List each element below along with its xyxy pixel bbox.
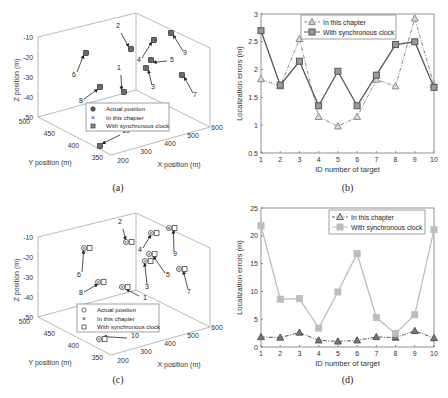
square-marker-icon	[431, 84, 437, 90]
chart-b-canvas: 0.511.522.5312345678910ID number of targ…	[224, 0, 448, 200]
sync-clock-marker-icon	[87, 246, 92, 251]
y-tick-label: 450	[44, 130, 56, 137]
y-axis-label: Y position (m)	[28, 159, 71, 167]
target-id-label: 6	[77, 271, 81, 278]
target-id-label: 9	[183, 49, 187, 56]
square-marker-icon	[412, 39, 418, 45]
legend-square-icon	[309, 29, 315, 35]
square-marker-icon	[335, 289, 341, 295]
pointer-arrow-icon	[84, 284, 98, 292]
y-tick-label: 2.5	[248, 38, 258, 45]
target-id-label: 5	[170, 56, 174, 63]
legend-label: With synchronous clock	[351, 224, 423, 232]
axis-box-edge	[38, 213, 136, 237]
in-this-chapter-marker-icon: ×	[168, 225, 171, 231]
z-axis-label: Z position (m)	[13, 59, 21, 102]
square-marker-icon	[354, 251, 360, 257]
target-id-label: 4	[138, 246, 142, 253]
sync-clock-marker-icon	[98, 144, 103, 149]
y-tick-label: 350	[92, 354, 104, 361]
y-tick-label: 500	[19, 118, 31, 125]
triangle-marker-icon	[373, 333, 380, 339]
square-marker-icon	[393, 42, 399, 48]
pointer-arrow-icon	[102, 135, 120, 144]
x-tick-label: 400	[164, 340, 176, 347]
panel-caption: (d)	[342, 374, 354, 386]
sync-clock-marker-icon	[102, 337, 107, 342]
target-id-label: 8	[79, 97, 83, 104]
pointer-arrow-icon	[153, 61, 167, 62]
series-line-2	[261, 226, 434, 334]
sync-clock-marker-icon	[98, 85, 103, 90]
in-this-chapter-marker-icon: ×	[178, 266, 181, 272]
legend-cross-icon: ×	[82, 315, 86, 322]
y-axis-label: Y position (m)	[28, 359, 71, 367]
square-marker-icon	[316, 325, 322, 331]
x-axis-label: X position (m)	[157, 361, 200, 369]
target-id-label: 3	[151, 83, 155, 90]
sync-clock-marker-icon	[122, 90, 127, 95]
square-marker-icon	[412, 312, 418, 318]
chart-d-canvas: 051015202512345678910ID number of target…	[224, 200, 448, 398]
square-marker-icon	[373, 315, 379, 321]
sync-clock-marker-icon	[129, 47, 134, 52]
z-axis-label: Z position (m)	[13, 259, 21, 302]
x-tick-label: 6	[355, 156, 359, 163]
z-tick-label: -40	[23, 94, 33, 101]
pointer-arrow-icon	[145, 263, 147, 284]
sync-clock-marker-icon	[180, 73, 185, 78]
pointer-arrow-icon	[84, 89, 98, 99]
pointer-arrow-icon	[173, 35, 183, 51]
y-axis-label: Localization errors (m)	[235, 46, 244, 121]
triangle-marker-icon	[296, 329, 303, 335]
legend-square-icon	[82, 325, 86, 329]
triangle-marker-icon	[431, 335, 438, 341]
pointer-arrow-icon	[173, 230, 174, 251]
pointer-arrow-icon	[123, 229, 126, 240]
x-tick-label: 9	[413, 156, 417, 163]
in-this-chapter-marker-icon: ×	[125, 239, 128, 245]
sync-clock-marker-icon	[148, 259, 153, 264]
legend-label: In this chapter	[106, 115, 144, 121]
square-marker-icon	[335, 68, 341, 74]
target-id-label: 8	[79, 289, 83, 296]
square-marker-icon	[258, 223, 264, 229]
target-id-label: 3	[145, 283, 149, 290]
panel-a-3d-scatter: -10-20-30-40-50Z position (m)35040045050…	[0, 0, 224, 200]
target-id-label: 2	[116, 22, 120, 29]
legend-label: With synchronous clock	[97, 324, 161, 330]
sync-clock-marker-icon	[172, 226, 177, 231]
x-tick-label: 500	[187, 132, 199, 139]
target-id-label: 6	[72, 71, 76, 78]
x-tick-label: 2	[278, 350, 282, 357]
panel-c-3d-scatter: -10-20-30-40-50Z position (m)35040045050…	[0, 200, 224, 398]
x-tick-label: 5	[336, 350, 340, 357]
x-tick-label: 500	[187, 332, 199, 339]
target-id-label: 2	[118, 218, 122, 225]
pointer-arrow-icon	[121, 75, 122, 90]
y-tick-label: 3	[254, 11, 258, 18]
target-id-label: 9	[173, 250, 177, 257]
triangle-marker-icon	[354, 337, 361, 343]
y-tick-label: 450	[44, 330, 56, 337]
x-tick-label: 10	[430, 350, 438, 357]
legend-label: With synchronous clock	[106, 123, 170, 129]
in-this-chapter-marker-icon: ×	[83, 245, 86, 251]
sync-clock-marker-icon	[182, 267, 187, 272]
pointer-arrow-icon	[77, 55, 84, 72]
pointer-arrow-icon	[143, 235, 151, 248]
legend-square-icon	[337, 224, 343, 230]
triangle-marker-icon	[354, 113, 361, 119]
target-id-label: 1	[143, 294, 147, 301]
in-this-chapter-marker-icon: ×	[150, 230, 153, 236]
sync-clock-marker-icon	[125, 285, 130, 290]
target-id-label: 10	[131, 332, 139, 339]
triangle-marker-icon	[258, 75, 265, 81]
z-tick-label: -30	[23, 274, 33, 281]
series-line-1	[261, 331, 434, 342]
y-tick-label: 1.5	[248, 94, 258, 101]
chart-a-canvas: -10-20-30-40-50Z position (m)35040045050…	[0, 0, 224, 200]
in-this-chapter-marker-icon: ×	[148, 251, 151, 257]
square-marker-icon	[431, 227, 437, 233]
triangle-marker-icon	[411, 327, 418, 333]
